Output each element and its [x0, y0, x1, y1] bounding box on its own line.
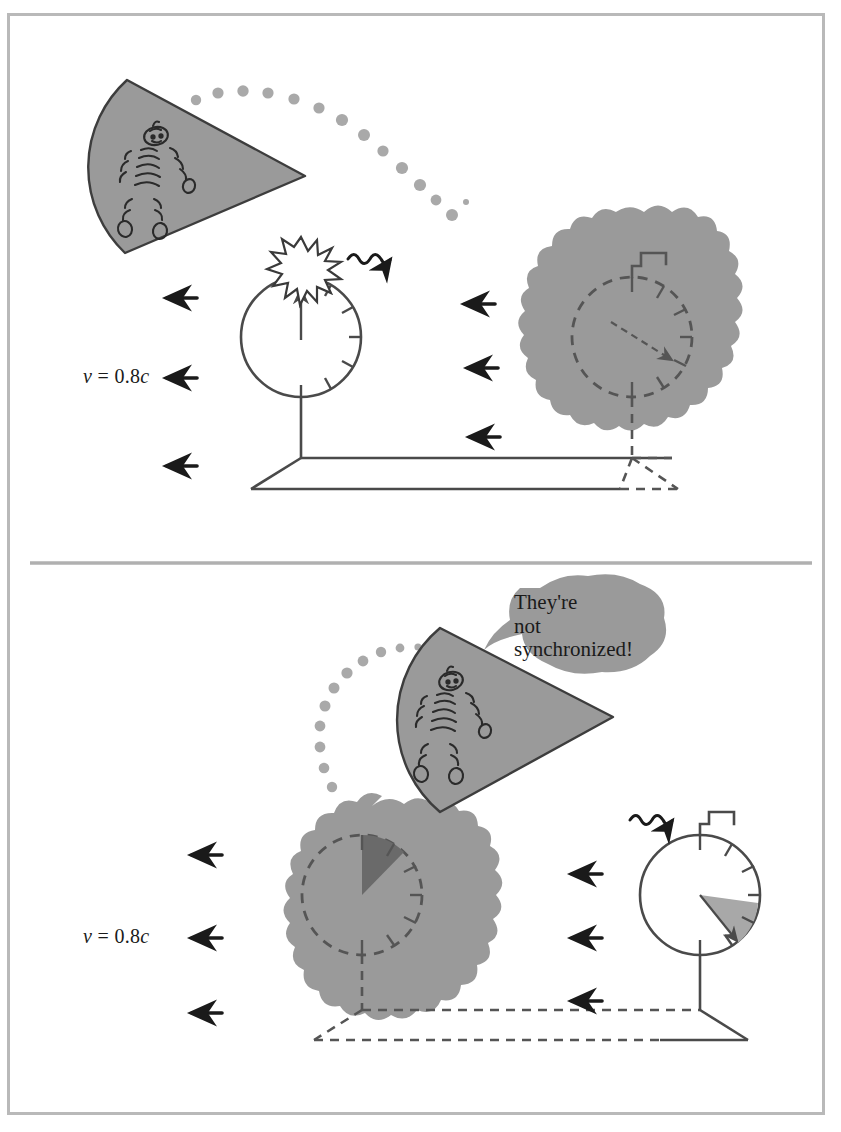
motion-arrows-left-bottom — [192, 855, 222, 1013]
figure-canvas: v = 0.8c v = 0.8c They're not synchroniz… — [0, 0, 841, 1132]
light-wave-top — [348, 255, 390, 264]
panel-top — [88, 80, 742, 489]
panel-bottom — [192, 574, 760, 1040]
velocity-symbol-v-top: v — [83, 365, 92, 387]
velocity-value-top: 0.8 — [114, 365, 140, 387]
velocity-value-bottom: 0.8 — [114, 925, 140, 947]
speech-line-1: They're — [514, 591, 633, 615]
speech-bubble-text: They're not synchronized! — [514, 591, 633, 662]
velocity-equals-bottom: = — [98, 925, 110, 947]
speech-line-2: not — [514, 615, 633, 639]
spaceship-top — [88, 80, 305, 253]
motion-arrows-right-bottom — [572, 874, 602, 1001]
observer-blob-bottom — [284, 793, 503, 1020]
motion-arrows-right-top — [465, 304, 500, 437]
velocity-symbol-c-bottom: c — [140, 925, 149, 947]
figure-artwork — [0, 0, 841, 1132]
velocity-label-bottom: v = 0.8c — [83, 925, 150, 948]
velocity-symbol-v-bottom: v — [83, 925, 92, 947]
speech-line-3: synchronized! — [514, 638, 633, 662]
velocity-equals-top: = — [98, 365, 110, 387]
light-wave-bottom — [630, 816, 672, 825]
velocity-symbol-c-top: c — [140, 365, 149, 387]
clock-bottom-right — [630, 812, 760, 1040]
velocity-label-top: v = 0.8c — [83, 365, 150, 388]
motion-arrows-left-top — [167, 298, 197, 466]
antenna-flag-bottom — [700, 812, 734, 835]
